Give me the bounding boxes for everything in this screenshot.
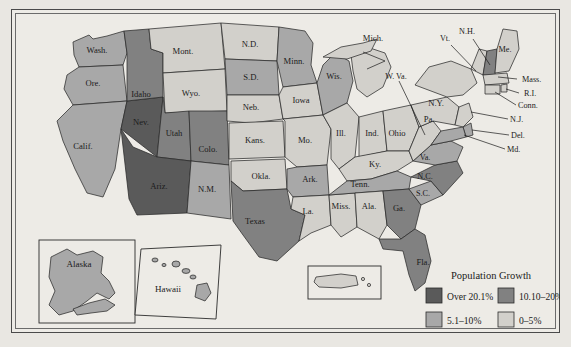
map-legend: Population Growth Over 20.1% 10.10–20% 5…	[426, 270, 560, 327]
insets-layer	[39, 240, 381, 323]
label-ariz: Ariz.	[150, 181, 167, 191]
label-mich: Mich.	[363, 33, 383, 43]
pr-islet-1	[361, 277, 364, 280]
hawaii-inset-box	[135, 245, 221, 319]
label-wash: Wash.	[86, 45, 107, 55]
label-va: Va.	[420, 153, 431, 162]
label-wva: W. Va.	[385, 72, 407, 81]
label-nc: N.C.	[417, 172, 432, 181]
legend-swatch-over20[interactable]	[426, 288, 442, 303]
label-me: Me.	[499, 45, 512, 54]
label-ill: Ill.	[336, 128, 346, 138]
label-nh: N.H.	[459, 27, 475, 36]
label-conn: Conn.	[518, 101, 538, 110]
label-mo: Mo.	[298, 135, 312, 145]
pr-islet-2	[367, 283, 370, 286]
label-colo: Colo.	[199, 144, 218, 154]
label-hawaii: Hawaii	[155, 284, 181, 294]
us-choropleth-map: Wash. Ore. Calif. Nev. Idaho Mont. Wyo. …	[11, 9, 560, 333]
state-ri[interactable]	[501, 84, 507, 92]
label-iowa: Iowa	[292, 95, 309, 105]
label-texas: Texas	[245, 216, 266, 226]
region-puerto-rico[interactable]	[314, 274, 358, 288]
label-idaho: Idaho	[131, 89, 151, 99]
legend-label-over20: Over 20.1%	[447, 291, 493, 302]
label-ala: Ala.	[362, 201, 377, 211]
legend-label-5to10: 5.1–10%	[447, 315, 481, 326]
label-utah: Utah	[166, 128, 183, 138]
legend-label-10to20: 10.10–20%	[519, 291, 560, 302]
label-ri: R.I.	[524, 89, 536, 98]
label-ark: Ark.	[302, 174, 318, 184]
leader-ri	[506, 89, 519, 93]
label-mont: Mont.	[173, 46, 194, 56]
label-ore: Ore.	[85, 78, 100, 88]
label-neb: Neb.	[243, 102, 259, 112]
label-okla: Okla.	[252, 171, 271, 181]
label-ind: Ind.	[365, 128, 379, 138]
label-ga: Ga.	[393, 203, 405, 213]
label-fla: Fla.	[416, 257, 429, 267]
map-page: Wash. Ore. Calif. Nev. Idaho Mont. Wyo. …	[0, 0, 571, 347]
state-colo[interactable]	[189, 111, 229, 165]
label-ny: N.Y.	[428, 98, 444, 108]
label-wyo: Wyo.	[182, 88, 200, 98]
leader-nj	[471, 112, 508, 119]
label-vt: Vt.	[440, 34, 450, 43]
leader-md	[464, 135, 505, 149]
label-sd: S.D.	[243, 72, 258, 82]
label-minn: Minn.	[284, 56, 305, 66]
label-la: La.	[302, 206, 313, 216]
label-nj: N.J.	[510, 115, 523, 124]
label-pa: Pa.	[424, 114, 435, 124]
label-nev: Nev.	[133, 117, 149, 127]
legend-swatch-0to5[interactable]	[498, 312, 514, 327]
legend-swatch-5to10[interactable]	[426, 312, 442, 327]
state-miss[interactable]	[329, 193, 357, 237]
label-sc: S.C.	[416, 189, 430, 198]
label-alaska: Alaska	[67, 259, 92, 269]
label-md: Md.	[507, 145, 520, 154]
label-ky: Ky.	[369, 159, 381, 169]
leader-conn	[495, 92, 516, 105]
state-ala[interactable]	[355, 191, 387, 239]
label-wis: Wis.	[326, 71, 342, 81]
state-mass[interactable]	[483, 73, 509, 85]
state-ny[interactable]	[415, 61, 477, 97]
label-nm: N.M.	[198, 184, 216, 194]
legend-title: Population Growth	[451, 270, 532, 281]
label-mass: Mass.	[522, 75, 541, 84]
label-miss: Miss.	[332, 201, 351, 211]
label-ohio: Ohio	[388, 128, 405, 138]
leader-del	[472, 130, 509, 135]
label-del: Del.	[511, 131, 525, 140]
label-tenn: Tenn.	[350, 179, 369, 189]
label-kans: Kans.	[245, 135, 265, 145]
legend-label-0to5: 0–5%	[519, 315, 541, 326]
legend-swatch-10to20[interactable]	[498, 288, 514, 303]
label-calif: Calif.	[73, 141, 92, 151]
state-conn[interactable]	[485, 85, 500, 94]
label-nd: N.D.	[242, 39, 259, 49]
